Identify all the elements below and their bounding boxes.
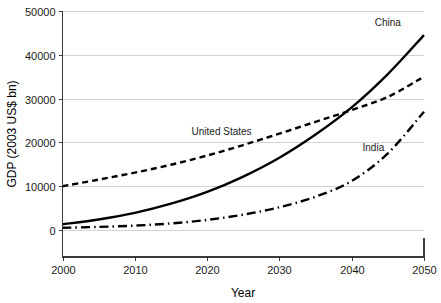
y-tick-label-30000: 30000 <box>25 94 56 106</box>
y-tick-label-40000: 40000 <box>25 50 56 62</box>
x-axis-title: Year <box>231 286 255 300</box>
series-label-united-states: United States <box>192 126 252 137</box>
y-tick-label-10000: 10000 <box>25 181 56 193</box>
y-axis-title: GDP (2003 US$ bn) <box>5 80 19 187</box>
x-tick-label-2010: 2010 <box>123 264 147 276</box>
y-tick-label-20000: 20000 <box>25 137 56 149</box>
y-tick-label-50000: 50000 <box>25 6 56 18</box>
gdp-projection-chart: 01000020000300004000050000 2000201020202… <box>0 0 441 303</box>
x-tick-label-2040: 2040 <box>340 264 364 276</box>
y-tick-label-0: 0 <box>49 225 55 237</box>
series-label-india: India <box>363 142 385 153</box>
x-tick-label-2020: 2020 <box>195 264 219 276</box>
x-tick-label-2050: 2050 <box>412 264 436 276</box>
series-label-china: China <box>375 17 402 28</box>
x-tick-label-2000: 2000 <box>51 264 75 276</box>
chart-svg: 01000020000300004000050000 2000201020202… <box>0 0 441 303</box>
x-tick-label-2030: 2030 <box>267 264 291 276</box>
